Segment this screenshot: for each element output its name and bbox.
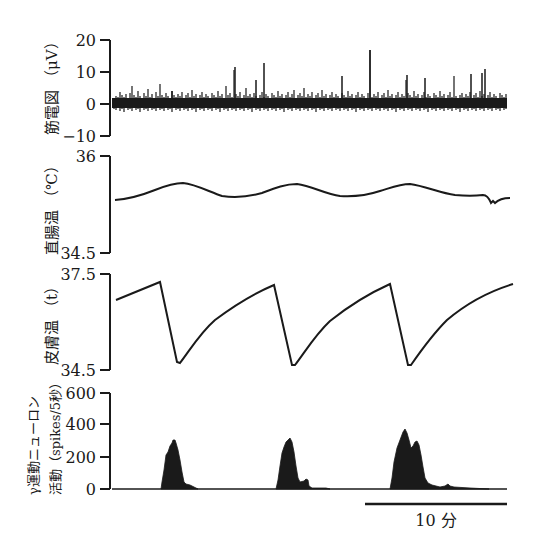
emg-panel: 20 10 0 −10 筋電図 （μV） xyxy=(43,31,507,146)
skin-y-label: 皮膚温 （t） xyxy=(43,279,61,365)
skin-tick-37-5: 37.5 xyxy=(60,265,96,284)
gamma-y-label-line2: 活動（spikes/5秒） xyxy=(48,376,63,495)
gamma-burst-3 xyxy=(390,429,489,489)
rectal-temp-trace xyxy=(115,183,510,203)
rectal-y-label-unit: （℃） xyxy=(43,158,61,205)
rectal-tick-34-5: 34.5 xyxy=(60,244,96,263)
physiology-figure: 20 10 0 −10 筋電図 （μV） 36 34.5 直腸温 （℃） xyxy=(0,0,537,551)
emg-tick-0: 0 xyxy=(86,95,96,114)
gamma-burst-1 xyxy=(161,440,198,489)
scale-bar-label: 10 分 xyxy=(415,511,456,530)
gamma-panel: 600 400 200 0 γ運動ニューロン 活動（spikes/5秒） xyxy=(26,376,507,499)
rectal-temp-panel: 36 34.5 直腸温 （℃） xyxy=(43,147,510,263)
gamma-y-axis xyxy=(100,393,110,489)
rectal-y-label: 直腸温 （℃） xyxy=(43,158,61,255)
skin-y-label-main: 皮膚温 xyxy=(43,320,61,365)
gamma-y-label-text1: γ運動ニューロン xyxy=(26,396,41,495)
skin-y-axis xyxy=(100,274,110,370)
emg-y-axis xyxy=(100,40,110,136)
gamma-tick-400: 400 xyxy=(65,415,96,434)
skin-temp-trace xyxy=(116,282,513,365)
skin-y-label-unit: （t） xyxy=(43,279,61,315)
emg-y-label-main: 筋電図 xyxy=(43,90,61,135)
emg-tick-neg10: −10 xyxy=(62,127,96,146)
rectal-y-label-main: 直腸温 xyxy=(43,210,61,255)
emg-tall-spikes xyxy=(172,50,485,104)
emg-tick-10: 10 xyxy=(76,63,96,82)
emg-baseline-band xyxy=(112,98,507,108)
emg-y-label: 筋電図 （μV） xyxy=(43,34,61,135)
emg-y-label-unit: （μV） xyxy=(43,34,61,85)
gamma-burst-2 xyxy=(276,438,330,489)
gamma-y-label-text2: 活動（spikes/5秒） xyxy=(48,376,63,495)
gamma-y-label-line1: γ運動ニューロン xyxy=(26,396,41,495)
skin-temp-panel: 37.5 34.5 皮膚温 （t） xyxy=(43,265,513,380)
emg-tick-20: 20 xyxy=(76,31,96,50)
rectal-y-axis xyxy=(100,156,110,253)
gamma-tick-600: 600 xyxy=(65,384,96,403)
rectal-tick-36: 36 xyxy=(76,147,96,166)
skin-tick-34-5: 34.5 xyxy=(60,361,96,380)
time-scale-bar: 10 分 xyxy=(365,504,507,530)
gamma-tick-0: 0 xyxy=(86,480,96,499)
gamma-tick-200: 200 xyxy=(65,448,96,467)
